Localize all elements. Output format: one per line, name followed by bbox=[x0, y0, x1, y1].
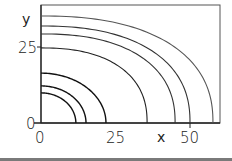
curve-4-line bbox=[41, 48, 147, 123]
chart-canvas: y 25 0 0 25 x 50 bbox=[0, 0, 232, 161]
contour-curves bbox=[41, 16, 213, 123]
x-tick-label-25: 25 bbox=[106, 129, 125, 147]
curve-2-line bbox=[41, 86, 86, 123]
curve-1-line bbox=[41, 93, 76, 123]
x-tick-label-0: 0 bbox=[35, 129, 45, 147]
y-tick-label-25: 25 bbox=[18, 39, 37, 57]
curve-7-line bbox=[41, 16, 213, 123]
bottom-divider bbox=[0, 158, 232, 161]
y-axis-label: y bbox=[22, 11, 30, 27]
x-tick-label-50: 50 bbox=[180, 129, 199, 147]
x-axis-label: x bbox=[157, 129, 165, 145]
curve-5-line bbox=[41, 34, 175, 123]
curve-6-line bbox=[41, 26, 190, 123]
